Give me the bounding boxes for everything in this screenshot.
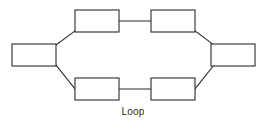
loop-topology-figure: Loop	[0, 0, 266, 132]
link-bottom-left-to-left	[56, 65, 75, 89]
link-left-to-top-left	[56, 31, 75, 45]
node-right	[211, 44, 255, 66]
node-bottom-right	[151, 78, 195, 100]
node-left	[12, 44, 56, 66]
node-bottom-left	[75, 78, 119, 100]
figure-caption: Loop	[0, 106, 266, 118]
node-top-left	[75, 10, 119, 32]
node-top-right	[151, 10, 195, 32]
node-group	[12, 10, 255, 100]
link-right-to-bottom-right	[195, 65, 214, 89]
link-top-right-to-right	[195, 31, 214, 45]
